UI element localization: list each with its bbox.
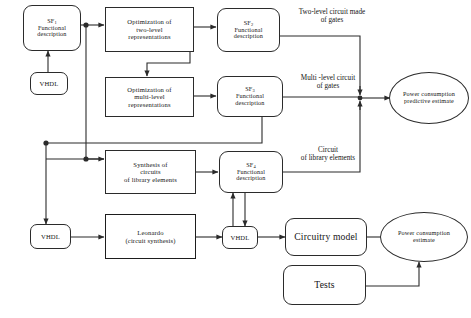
node-optimization-two-level[interactable]: Optimization of two-level representation… — [105, 7, 194, 52]
node-sf1[interactable]: SF1 Functional description — [23, 5, 81, 51]
edge-tests-to-estimate — [366, 262, 419, 286]
node-circuitry-model[interactable]: Circuitry model — [285, 218, 367, 256]
junction-dot-top-left — [83, 22, 88, 27]
node-sf2-line1: SF — [244, 19, 251, 26]
node-synthesis-library[interactable]: Synthesis of circuits of library element… — [105, 150, 196, 194]
node-power-consumption-estimate[interactable]: Power consumption estimate — [380, 212, 468, 262]
node-sf4-line2: Functional — [237, 168, 265, 175]
edge-opt2-to-opt-multi — [147, 52, 190, 76]
node-leonardo[interactable]: Leonardo (circuit synthesis) — [105, 214, 196, 259]
node-vhdl-bottom-left[interactable]: VHDL — [30, 224, 71, 249]
node-leonardo-line1: Leonardo — [137, 229, 164, 236]
node-optmulti-line2: multi-level — [134, 93, 165, 100]
node-opt2-line1: Optimization of — [127, 18, 171, 25]
node-synthesis-line2: circuits — [140, 168, 161, 175]
node-sf2-line3: description — [234, 32, 263, 39]
node-vhdl-top-label: VHDL — [38, 80, 61, 87]
node-leonardo-line2: (circuit synthesis) — [125, 237, 175, 244]
junction-dots — [43, 22, 362, 161]
node-estimate-line2: estimate — [413, 236, 435, 243]
node-optmulti-line1: Optimization of — [127, 86, 171, 93]
node-opt2-line2: two-level — [136, 26, 162, 33]
node-optimization-multi-level[interactable]: Optimization of multi-level representati… — [105, 77, 194, 117]
node-sf3-line2: Functional — [236, 92, 264, 99]
node-synthesis-line1: Synthesis of — [133, 161, 167, 168]
edge-label-two-level-gates-line2: of gates — [321, 16, 344, 24]
node-optmulti-line3: representations — [128, 101, 170, 108]
node-sf1-line2: Functional — [38, 24, 66, 31]
node-sf2[interactable]: SF2 Functional description — [217, 8, 280, 52]
edge-label-library-circuit-line2: of library elements — [301, 154, 355, 162]
edge-label-library-circuit: Circuit of library elements — [283, 146, 373, 163]
node-sf4-line3: description — [236, 174, 265, 181]
node-predictive-line2: predictive estimate — [404, 97, 454, 104]
edge-label-two-level-gates-line1: Two-level circuit made — [299, 8, 366, 16]
junction-dot-feedback — [43, 140, 48, 145]
edge-label-multi-level-gates: Multi -level circuit of gates — [282, 74, 374, 91]
junction-dot-collector — [358, 96, 363, 101]
node-sf3[interactable]: SF3 Functional description — [217, 76, 283, 117]
node-vhdl-mid[interactable]: VHDL — [222, 226, 258, 249]
edge-sf3-feedback-left — [46, 117, 262, 143]
junction-dot-synthesis — [83, 156, 88, 161]
node-power-consumption-predictive-estimate[interactable]: Power consumption predictive estimate — [389, 72, 469, 124]
node-predictive-line1: Power consumption — [403, 90, 455, 97]
node-circuitry-model-label: Circuitry model — [292, 232, 359, 243]
edge-label-library-circuit-line1: Circuit — [318, 146, 338, 154]
node-opt2-line3: representations — [128, 33, 170, 40]
node-vhdl-bottom-left-label: VHDL — [39, 233, 62, 240]
node-synthesis-line3: of library elements — [124, 176, 177, 183]
node-sf3-line3: description — [235, 99, 264, 106]
node-tests-label: Tests — [312, 280, 336, 291]
node-tests[interactable]: Tests — [283, 265, 366, 305]
edge-label-multi-level-gates-line2: of gates — [317, 82, 340, 90]
node-vhdl-top[interactable]: VHDL — [30, 72, 68, 95]
edge-label-multi-level-gates-line1: Multi -level circuit — [301, 74, 355, 82]
edge-label-two-level-gates: Two-level circuit made of gates — [280, 8, 384, 25]
node-vhdl-mid-label: VHDL — [229, 234, 252, 241]
node-sf4[interactable]: SF4 Functional description — [219, 151, 283, 193]
node-estimate-line1: Power consumption — [398, 229, 450, 236]
node-sf2-line2: Functional — [234, 26, 262, 33]
diagram-canvas: SF1 Functional description VHDL Optimiza… — [0, 0, 471, 318]
node-sf1-line3: description — [37, 30, 66, 37]
